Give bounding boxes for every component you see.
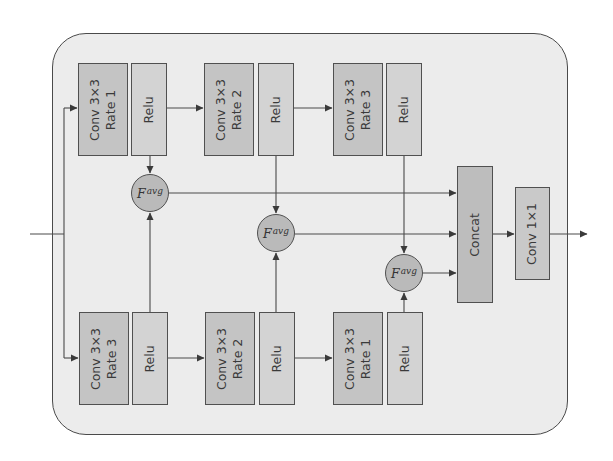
top-relu-1: Relu	[131, 63, 167, 156]
conv-label: Conv 3×3	[213, 78, 229, 140]
fusion-avg-node-1: Favg	[131, 174, 169, 212]
top-conv-rate3: Conv 3×3Rate 3	[333, 63, 383, 156]
fusion-base: F	[391, 266, 400, 281]
top-relu-2: Relu	[258, 63, 294, 156]
bottom-relu-3: Relu	[387, 312, 423, 405]
relu-label: Relu	[269, 345, 285, 372]
bottom-conv-rate3: Conv 3×3Rate 3	[79, 312, 129, 405]
bottom-conv-rate1: Conv 3×3Rate 1	[333, 312, 383, 405]
fusion-base: F	[137, 186, 146, 201]
relu-label: Relu	[396, 96, 412, 123]
top-relu-3: Relu	[386, 63, 422, 156]
relu-label: Relu	[141, 96, 157, 123]
relu-label: Relu	[142, 345, 158, 372]
rate-label: Rate 3	[104, 338, 120, 379]
bottom-relu-1: Relu	[132, 312, 168, 405]
fusion-base: F	[263, 226, 272, 241]
bottom-relu-2: Relu	[259, 312, 295, 405]
concat-block: Concat	[457, 166, 493, 303]
conv-label: Conv 3×3	[342, 327, 358, 389]
fusion-avg-node-3: Favg	[385, 254, 423, 292]
fusion-avg-node-2: Favg	[257, 214, 295, 252]
diagram-canvas: Conv 3×3Rate 1 Relu Conv 3×3Rate 2 Relu …	[0, 0, 613, 461]
rate-label: Rate 2	[229, 89, 245, 130]
top-conv-rate2: Conv 3×3Rate 2	[204, 63, 254, 156]
relu-label: Relu	[397, 345, 413, 372]
rate-label: Rate 1	[103, 89, 119, 130]
rate-label: Rate 2	[230, 338, 246, 379]
relu-label: Relu	[268, 96, 284, 123]
conv-label: Conv 3×3	[88, 327, 104, 389]
fusion-sup: avg	[147, 186, 163, 196]
conv-label: Conv 3×3	[87, 78, 103, 140]
conv-1x1-block: Conv 1×1	[515, 187, 550, 280]
fusion-sup: avg	[273, 226, 289, 236]
conv-label: Conv 3×3	[214, 327, 230, 389]
conv-label: Conv 3×3	[342, 78, 358, 140]
bottom-conv-rate2: Conv 3×3Rate 2	[205, 312, 255, 405]
top-conv-rate1: Conv 3×3Rate 1	[78, 63, 128, 156]
conv-1x1-label: Conv 1×1	[525, 202, 541, 264]
concat-label: Concat	[467, 213, 483, 257]
rate-label: Rate 3	[358, 89, 374, 130]
fusion-sup: avg	[401, 266, 417, 276]
rate-label: Rate 1	[358, 338, 374, 379]
